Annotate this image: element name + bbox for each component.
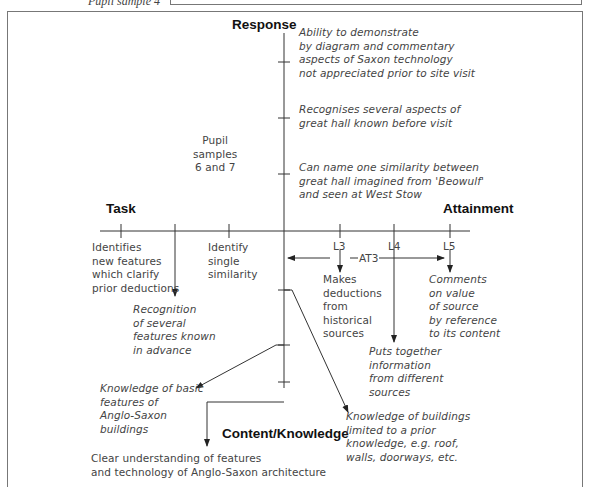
pupil-samples-note: Pupilsamples6 and 7 — [193, 134, 237, 175]
attainment-item-l5: Commentson value of sourceby reference t… — [429, 273, 500, 341]
axis-label-attainment: Attainment — [443, 201, 514, 216]
attainment-item-l3: Makesdeductions fromhistorical sources — [323, 273, 382, 341]
axis-label-task: Task — [106, 201, 136, 216]
content-item-basic: Knowledge of basicfeatures of Anglo-Saxo… — [100, 382, 204, 436]
task-item-identify-single: Identifysingle similarity — [208, 241, 257, 282]
attainment-item-l4: Puts togetherinformation from differents… — [369, 345, 443, 399]
at3-range-label: AT3 — [358, 252, 379, 264]
response-item-1: Ability to demonstrateby diagram and com… — [299, 26, 475, 80]
axis-label-response: Response — [232, 17, 297, 32]
level-l4: L4 — [388, 240, 401, 252]
response-item-3: Can name one similarity betweengreat hal… — [299, 161, 484, 202]
task-item-identifies: Identifiesnew features which clarifyprio… — [92, 241, 179, 295]
axis-label-content: Content/Knowledge — [222, 426, 349, 441]
level-l3: L3 — [333, 240, 346, 252]
level-l5: L5 — [443, 240, 456, 252]
task-item-recognition: Recognitionof several features knownin a… — [133, 303, 216, 357]
content-item-limited: Knowledge of buildingslimited to a prior… — [346, 410, 470, 464]
response-item-2: Recognises several aspects ofgreat hall … — [299, 103, 460, 130]
content-item-clear: Clear understanding of featuresand techn… — [91, 452, 326, 479]
